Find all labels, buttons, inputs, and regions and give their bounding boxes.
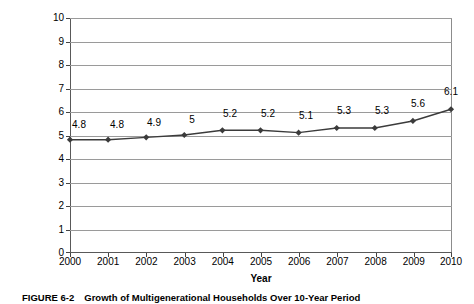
x-tick-label: 2006	[279, 256, 319, 267]
data-point-label: 5	[172, 115, 212, 125]
y-tick-label: 5	[48, 131, 64, 141]
data-point-label: 5.2	[248, 109, 288, 119]
y-tick-label: 6	[48, 107, 64, 117]
data-point-marker	[448, 106, 454, 112]
x-tick-label: 2004	[203, 256, 243, 267]
figure-container: Percentage of all Households in the Unit…	[0, 0, 474, 304]
data-point-label: 5.3	[324, 106, 364, 116]
x-tick-label: 2002	[126, 256, 166, 267]
data-point-marker	[410, 118, 416, 124]
x-tick-label: 2009	[394, 256, 434, 267]
x-tick-label: 2007	[317, 256, 357, 267]
x-axis-title: Year	[70, 273, 452, 284]
x-tick-label: 2001	[88, 256, 128, 267]
y-tick-label: 8	[48, 60, 64, 70]
data-point-label: 5.1	[286, 111, 326, 121]
data-point-marker	[143, 134, 149, 140]
data-point-marker	[105, 137, 111, 143]
y-tick-label: 10	[48, 13, 64, 23]
data-point-label: 4.9	[134, 118, 174, 128]
data-point-label: 5.3	[362, 106, 402, 116]
data-point-marker	[257, 127, 263, 133]
data-point-label: 5.6	[398, 99, 438, 109]
y-tick-label: 9	[48, 37, 64, 47]
data-point-label: 6.1	[431, 87, 471, 97]
data-point-marker	[296, 130, 302, 136]
y-tick-label: 4	[48, 154, 64, 164]
y-tick-label: 3	[48, 178, 64, 188]
data-point-label: 4.8	[97, 120, 137, 130]
data-point-label: 5.2	[210, 109, 250, 119]
x-tick-label: 2008	[356, 256, 396, 267]
figure-caption: FIGURE 6-2Growth of Multigenerational Ho…	[22, 292, 474, 303]
figure-caption-text: Growth of Multigenerational Households O…	[84, 292, 360, 303]
data-point-marker	[372, 125, 378, 131]
x-tick-label: 2005	[241, 256, 281, 267]
data-point-marker	[67, 137, 73, 143]
data-point-marker	[219, 127, 225, 133]
y-tick-label: 7	[48, 84, 64, 94]
y-tick-label: 2	[48, 201, 64, 211]
x-tick-label: 2003	[165, 256, 205, 267]
x-tick-label: 2010	[431, 256, 471, 267]
plot-area: 4.8 4.8 4.9 5 5.2 5.2 5.1 5.3 5.3 5.6 6.…	[70, 18, 452, 253]
data-series-line	[70, 18, 452, 253]
figure-caption-number: FIGURE 6-2	[22, 292, 74, 303]
y-tick-label: 1	[48, 225, 64, 235]
data-point-label: 4.8	[59, 120, 99, 130]
data-point-marker	[334, 125, 340, 131]
x-tick-label: 2000	[50, 256, 90, 267]
data-point-marker	[181, 132, 187, 138]
